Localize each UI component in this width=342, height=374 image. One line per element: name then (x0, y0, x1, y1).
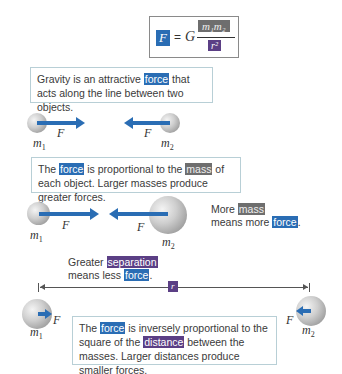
force-arrow-right (39, 212, 91, 216)
mass-1-label: m1 (30, 325, 43, 341)
subscript: 2 (311, 330, 315, 339)
mass-2-label: m2 (302, 323, 315, 339)
force-label: F (62, 218, 69, 233)
note-text: . (298, 216, 301, 228)
mass-symbol: m (161, 136, 170, 150)
force-label: F (57, 126, 64, 141)
arrowhead-icon (90, 208, 99, 220)
arrowhead-icon (109, 208, 118, 220)
force-label: F (137, 220, 144, 235)
mass-symbol: m (30, 325, 39, 339)
mass-2-label: m2 (162, 235, 175, 251)
force-arrow-right (37, 121, 77, 125)
mass-symbol: m (302, 323, 311, 337)
attraction-caption: Gravity is an attractive force that acts… (30, 67, 213, 103)
force-label: F (286, 313, 293, 328)
distance-label: r (168, 281, 178, 292)
subscript: 2 (171, 242, 175, 251)
distance-tick-left (38, 283, 39, 292)
mass-1-label: m1 (30, 228, 43, 244)
mass-symbol: m (162, 235, 171, 249)
mass-symbol: m (33, 136, 42, 150)
subscript: 1 (39, 332, 43, 341)
mass-caption: The force is proportional to the mass of… (31, 157, 241, 193)
arrowhead-icon (45, 309, 52, 319)
note-text: means less (68, 269, 124, 281)
note-text: More (211, 203, 238, 215)
distance-squared: r² (208, 40, 221, 51)
mass-highlight: mass (238, 203, 265, 215)
caption-text: Gravity is an attractive (37, 73, 144, 85)
mass-side-note: More mass means more force. (211, 203, 301, 229)
mass-2-label: m2 (161, 136, 174, 152)
caption-text: The (38, 163, 59, 175)
arrowhead-icon (303, 284, 308, 290)
force-highlight: force (272, 216, 297, 228)
gravitation-equation: F = G m₁m₂ r² (149, 16, 239, 58)
subscript: 2 (170, 143, 174, 152)
mass-1-label: m1 (33, 136, 46, 152)
note-text: means more (211, 216, 272, 228)
subscript: 1 (42, 143, 46, 152)
force-highlight: force (100, 322, 125, 334)
force-symbol: F (156, 30, 170, 46)
equals-sign: = (174, 30, 181, 44)
note-text: . (149, 269, 152, 281)
distance-tick-right (309, 283, 310, 292)
force-label: F (53, 313, 60, 328)
arrowhead-icon (124, 117, 133, 129)
arrowhead-icon (76, 117, 85, 129)
arrowhead-icon (40, 284, 45, 290)
force-highlight: force (59, 163, 84, 175)
mass-highlight: mass (185, 163, 212, 175)
force-highlight: force (124, 269, 149, 281)
subscript: 1 (39, 235, 43, 244)
separation-note: Greater separation means less force. (68, 256, 158, 282)
mass-product: m₁m₂ (198, 20, 230, 32)
arrowhead-icon (296, 306, 303, 316)
force-arrow-left-small (303, 309, 311, 313)
force-arrow-left (118, 212, 168, 216)
fraction-bar (197, 37, 235, 38)
force-highlight: force (144, 73, 169, 85)
mass-symbol: m (30, 228, 39, 242)
separation-highlight: separation (107, 256, 158, 268)
distance-highlight: distance (143, 336, 184, 348)
gravitational-constant: G (185, 29, 195, 45)
caption-text: The (79, 322, 100, 334)
force-label: F (144, 126, 151, 141)
distance-caption: The force is inversely proportional to t… (72, 316, 277, 365)
force-arrow-left (133, 121, 170, 125)
caption-text: is proportional to the (84, 163, 185, 175)
note-text: Greater (68, 256, 107, 268)
